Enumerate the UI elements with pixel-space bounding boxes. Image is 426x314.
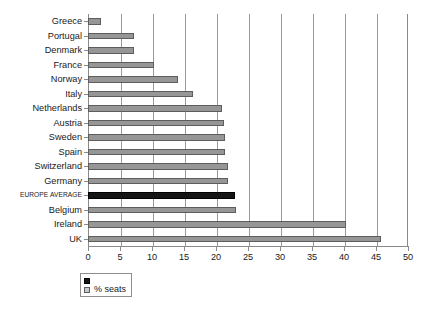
bar-row <box>88 29 408 44</box>
x-tick-5 <box>120 246 121 251</box>
bar-portugal[interactable] <box>88 33 134 39</box>
bar-uk[interactable] <box>88 236 381 242</box>
bar-row <box>88 217 408 232</box>
legend-label: % seats <box>94 285 126 294</box>
bar-row <box>88 232 408 247</box>
x-tick-label-35: 35 <box>307 252 317 263</box>
category-axis: GreecePortugalDenmarkFranceNorwayItalyNe… <box>0 14 86 246</box>
bar-row <box>88 72 408 87</box>
category-label-greece: Greece <box>0 16 82 26</box>
x-tick-20 <box>216 246 217 251</box>
x-tick-35 <box>312 246 313 251</box>
x-tick-50 <box>408 246 409 251</box>
category-label-switzerland: Switzerland <box>0 161 82 171</box>
x-tick-label-20: 20 <box>211 252 221 263</box>
legend-swatch-dark <box>84 278 90 284</box>
x-tick-25 <box>248 246 249 251</box>
bar-row <box>88 188 408 203</box>
bar-row <box>88 145 408 160</box>
bar-row <box>88 116 408 131</box>
x-tick-label-0: 0 <box>85 252 90 263</box>
x-tick-label-30: 30 <box>275 252 285 263</box>
x-tick-10 <box>152 246 153 251</box>
x-tick-0 <box>88 246 89 251</box>
bar-norway[interactable] <box>88 76 178 82</box>
bar-italy[interactable] <box>88 91 193 97</box>
bar-row <box>88 203 408 218</box>
category-label-france: France <box>0 60 82 70</box>
bar-belgium[interactable] <box>88 207 236 213</box>
legend-swatch-light <box>84 287 90 293</box>
category-label-sweden: Sweden <box>0 132 82 142</box>
category-label-ireland: Ireland <box>0 219 82 229</box>
bar-spain[interactable] <box>88 149 225 155</box>
figure-container: GreecePortugalDenmarkFranceNorwayItalyNe… <box>0 0 426 314</box>
category-label-portugal: Portugal <box>0 31 82 41</box>
category-label-netherlands: Netherlands <box>0 103 82 113</box>
category-label-germany: Germany <box>0 176 82 186</box>
category-label-uk: UK <box>0 234 82 244</box>
bar-row <box>88 174 408 189</box>
bar-row <box>88 14 408 29</box>
bar-greece[interactable] <box>88 18 101 24</box>
x-tick-15 <box>184 246 185 251</box>
value-axis: 05101520253035404550 <box>88 246 408 268</box>
bar-sweden[interactable] <box>88 134 225 140</box>
category-label-denmark: Denmark <box>0 45 82 55</box>
bar-row <box>88 101 408 116</box>
x-tick-45 <box>376 246 377 251</box>
bar-row <box>88 43 408 58</box>
bar-row <box>88 130 408 145</box>
x-tick-30 <box>280 246 281 251</box>
bar-france[interactable] <box>88 62 154 68</box>
x-tick-label-50: 50 <box>403 252 413 263</box>
bar-austria[interactable] <box>88 120 224 126</box>
x-tick-40 <box>344 246 345 251</box>
x-tick-label-25: 25 <box>243 252 253 263</box>
x-tick-label-5: 5 <box>117 252 122 263</box>
category-label-norway: Norway <box>0 74 82 84</box>
x-tick-label-40: 40 <box>339 252 349 263</box>
bars-layer <box>88 14 408 246</box>
x-tick-label-15: 15 <box>179 252 189 263</box>
legend-entry[interactable]: % seats <box>84 285 126 294</box>
chart-legend: % seats <box>80 273 132 297</box>
category-label-europe-average: EUROPE AVERAGE <box>0 190 82 200</box>
category-label-spain: Spain <box>0 147 82 157</box>
bar-switzerland[interactable] <box>88 163 228 169</box>
bar-denmark[interactable] <box>88 47 134 53</box>
bar-row <box>88 159 408 174</box>
category-label-belgium: Belgium <box>0 205 82 215</box>
x-tick-label-10: 10 <box>147 252 157 263</box>
bar-row <box>88 58 408 73</box>
category-label-italy: Italy <box>0 89 82 99</box>
bar-netherlands[interactable] <box>88 105 222 111</box>
x-tick-label-45: 45 <box>371 252 381 263</box>
bar-row <box>88 87 408 102</box>
bar-germany[interactable] <box>88 178 228 184</box>
bar-europe-average[interactable] <box>88 192 235 198</box>
category-label-austria: Austria <box>0 118 82 128</box>
bar-ireland[interactable] <box>88 221 346 227</box>
